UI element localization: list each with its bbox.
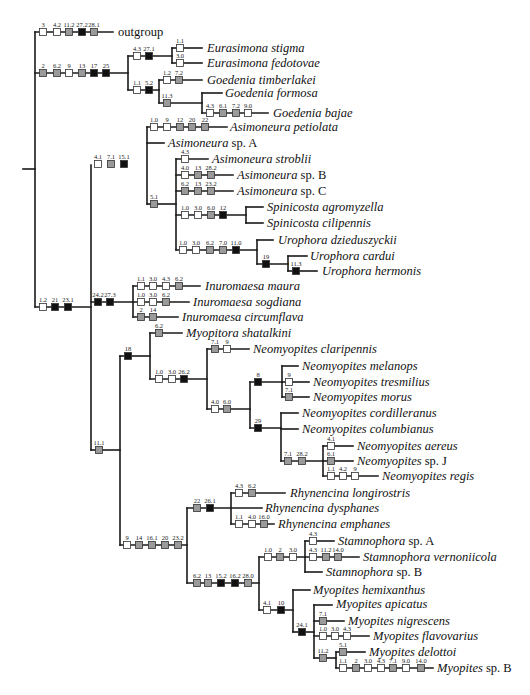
taxon-label: Myopites nigrescens <box>347 614 450 628</box>
gray-state-box-icon <box>79 70 86 77</box>
character-marker: 10 <box>278 599 285 614</box>
character-marker: 27.2 <box>76 21 87 36</box>
open-state-box-icon <box>156 376 163 383</box>
character-marker: 28.1 <box>88 21 99 36</box>
character-marker: 23.2 <box>205 180 216 195</box>
character-marker: 9 <box>124 534 131 549</box>
character-label: 6.2 <box>155 322 163 329</box>
open-state-box-icon <box>290 554 297 561</box>
character-marker: 22 <box>202 116 209 131</box>
character-marker: 5.1 <box>150 193 158 208</box>
character-marker: 6.2 <box>206 239 214 254</box>
character-label: 7.1 <box>107 153 115 160</box>
character-marker: 1.1 <box>327 465 335 480</box>
gray-state-box-icon <box>164 100 171 107</box>
character-marker: 4.3 <box>162 275 170 290</box>
character-label: 16.1 <box>146 534 157 541</box>
character-marker: 20 <box>162 534 169 549</box>
character-label: 9 <box>287 371 290 378</box>
character-marker: 3.0 <box>331 625 339 640</box>
open-state-box-icon <box>264 607 271 614</box>
character-marker: 4.3 <box>235 482 243 497</box>
character-marker: 24.2 <box>92 291 103 306</box>
taxon-label: Myopites flavovarius <box>372 629 478 643</box>
open-state-box-icon <box>124 542 131 549</box>
character-label: 25 <box>103 62 110 69</box>
taxon-label: Urophora hermonis <box>322 264 421 278</box>
character-label: 1.1 <box>339 657 347 664</box>
character-label: 6.2 <box>175 275 183 282</box>
black-state-box-icon <box>255 425 262 432</box>
character-label: 1.0 <box>150 116 158 123</box>
character-label: 4.0 <box>181 164 189 171</box>
character-label: 27.3 <box>104 291 115 298</box>
character-label: 21 <box>52 296 59 303</box>
character-marker: 15.2 <box>215 572 226 587</box>
character-label: 9 <box>165 116 168 123</box>
character-marker: 9 <box>286 371 293 386</box>
taxon-label: Goedenia formosa <box>225 86 318 100</box>
character-label: 3.0 <box>149 291 157 298</box>
character-label: 1.1 <box>137 275 145 282</box>
character-marker: 26.2 <box>178 368 189 383</box>
taxon-label: Goedenia bajae <box>273 106 353 120</box>
taxon-label: Inuromaesa maura <box>204 279 300 293</box>
open-state-box-icon <box>177 45 184 52</box>
gray-state-box-icon <box>299 458 306 465</box>
gray-state-box-icon <box>202 124 209 131</box>
character-label: 13 <box>195 164 202 171</box>
character-label: 5.1 <box>150 193 158 200</box>
gray-state-box-icon <box>150 314 157 321</box>
black-state-box-icon <box>107 299 114 306</box>
open-state-box-icon <box>310 538 317 545</box>
character-label: 1.2 <box>163 69 171 76</box>
character-marker: 1.1 <box>176 37 184 52</box>
gray-state-box-icon <box>224 406 231 413</box>
character-marker: 25 <box>103 62 110 77</box>
black-state-box-icon <box>293 268 300 275</box>
character-label: 12 <box>177 116 184 123</box>
taxon-label: Inuromaesa sogdiana <box>192 295 301 309</box>
taxon-name-italic: Inuromaesa circumflava <box>181 310 304 324</box>
taxon-name-italic: Eurasimona fedotovae <box>206 56 320 70</box>
character-label: 6.0 <box>223 398 231 405</box>
open-state-box-icon <box>169 376 176 383</box>
character-label: 12 <box>220 204 227 211</box>
open-state-box-icon <box>224 346 231 353</box>
character-marker: 4.1 <box>263 599 271 614</box>
open-state-box-icon <box>40 304 47 311</box>
character-marker: 23.1 <box>62 296 73 311</box>
open-state-box-icon <box>180 247 187 254</box>
character-label: 7.2 <box>175 69 183 76</box>
open-state-box-icon <box>265 554 272 561</box>
taxon-label: Rhynencina dysphanes <box>264 501 379 515</box>
taxon-name-italic: Neomyopites aereus <box>356 439 458 453</box>
character-marker: 4.1 <box>94 153 102 168</box>
black-state-box-icon <box>52 304 59 311</box>
character-marker: 3.0 <box>168 368 176 383</box>
character-label: 26.1 <box>204 497 215 504</box>
taxon-name-italic: Neomyopites <box>356 454 422 468</box>
open-state-box-icon <box>164 124 171 131</box>
character-label: 6.0 <box>207 204 215 211</box>
taxon-label: Urophora dzieduszyckii <box>278 233 397 247</box>
character-label: 1.0 <box>181 204 189 211</box>
taxon-name-italic: Urophora cardui <box>310 249 395 263</box>
black-state-box-icon <box>79 29 86 36</box>
character-marker: 6.2 <box>248 482 256 497</box>
character-marker: 1.1 <box>133 79 141 94</box>
character-label: 2 <box>139 306 142 313</box>
character-label: 9.0 <box>244 102 252 109</box>
gray-state-box-icon <box>320 618 327 625</box>
character-marker: 27.3 <box>104 291 115 306</box>
taxon-label: Neomyopites columbianus <box>301 422 434 436</box>
gray-state-box-icon <box>163 299 170 306</box>
character-label: 11.3 <box>161 92 172 99</box>
gray-state-box-icon <box>138 314 145 321</box>
character-marker: 2 <box>277 546 284 561</box>
character-label: 16.2 <box>229 572 240 579</box>
open-state-box-icon <box>328 443 335 450</box>
taxon-name-italic: Inuromaesa sogdiana <box>192 295 301 309</box>
character-label: 23.2 <box>205 180 216 187</box>
taxon-label: Myopites hemixanthus <box>312 583 425 597</box>
